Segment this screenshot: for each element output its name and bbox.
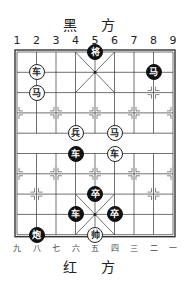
black-piece[interactable]: 卒 xyxy=(107,206,123,222)
red-piece[interactable]: 马 xyxy=(29,85,45,101)
column-chinese-numeral: 四 xyxy=(108,242,122,253)
black-piece[interactable]: 将 xyxy=(87,44,103,60)
column-chinese-numeral: 三 xyxy=(127,242,141,253)
column-chinese-numeral: 六 xyxy=(69,242,83,253)
red-piece[interactable]: 兵 xyxy=(68,125,84,141)
black-piece[interactable]: 车 xyxy=(68,146,84,162)
red-piece[interactable]: 车 xyxy=(29,64,45,80)
column-chinese-numeral: 七 xyxy=(49,242,63,253)
red-side-label: 红 方 xyxy=(0,256,188,276)
column-chinese-numeral: 一 xyxy=(166,242,180,253)
column-chinese-numeral: 八 xyxy=(30,242,44,253)
black-piece[interactable]: 车 xyxy=(68,206,84,222)
column-chinese-numeral: 二 xyxy=(147,242,161,253)
column-chinese-numeral: 九 xyxy=(10,242,24,253)
black-piece[interactable]: 炮 xyxy=(29,227,45,243)
red-piece[interactable]: 车 xyxy=(107,146,123,162)
red-piece[interactable]: 帅 xyxy=(87,227,103,243)
column-chinese-numeral: 五 xyxy=(88,242,102,253)
black-piece[interactable]: 马 xyxy=(146,64,162,80)
black-piece[interactable]: 卒 xyxy=(87,186,103,202)
red-piece[interactable]: 马 xyxy=(107,125,123,141)
